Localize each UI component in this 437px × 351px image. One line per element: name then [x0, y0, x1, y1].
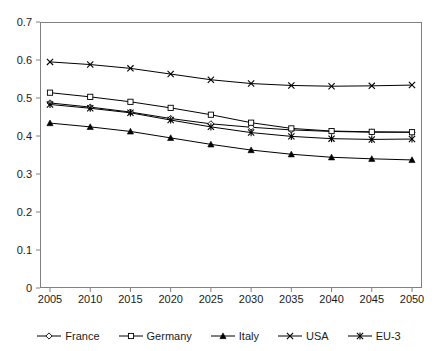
data-point-marker-open-diamond	[46, 333, 52, 339]
legend-label: France	[65, 330, 99, 342]
x-tick-label: 2030	[239, 294, 263, 305]
x-tick-label: 2025	[199, 294, 223, 305]
x-tick-label: 2040	[319, 294, 343, 305]
legend-marker-open-diamond-icon	[36, 330, 62, 342]
legend-label: Italy	[239, 330, 259, 342]
x-axis-labels: 2005201020152020202520302035204020452050	[0, 0, 437, 351]
legend-marker-filled-triangle-icon	[210, 330, 236, 342]
legend-label: Germany	[147, 330, 192, 342]
x-tick-label: 2010	[78, 294, 102, 305]
legend-item-germany[interactable]: Germany	[118, 330, 192, 342]
legend-marker-star-asterisk-icon	[347, 330, 373, 342]
legend-item-eu-3[interactable]: EU-3	[347, 330, 401, 342]
x-tick-label: 2035	[279, 294, 303, 305]
legend-item-usa[interactable]: USA	[277, 330, 329, 342]
legend-marker-cross-x-icon	[277, 330, 303, 342]
line-chart: 00.10.20.30.40.50.60.7 20052010201520202…	[0, 0, 437, 351]
legend-item-italy[interactable]: Italy	[210, 330, 259, 342]
data-point-marker-open-square	[128, 333, 133, 338]
legend-label: EU-3	[376, 330, 401, 342]
x-tick-label: 2020	[158, 294, 182, 305]
legend-marker-open-square-icon	[118, 330, 144, 342]
chart-legend: FranceGermanyItalyUSAEU-3	[0, 324, 437, 348]
x-tick-label: 2005	[38, 294, 62, 305]
legend-label: USA	[306, 330, 329, 342]
x-tick-label: 2045	[360, 294, 384, 305]
legend-item-france[interactable]: France	[36, 330, 99, 342]
x-tick-label: 2015	[118, 294, 142, 305]
x-tick-label: 2050	[400, 294, 424, 305]
